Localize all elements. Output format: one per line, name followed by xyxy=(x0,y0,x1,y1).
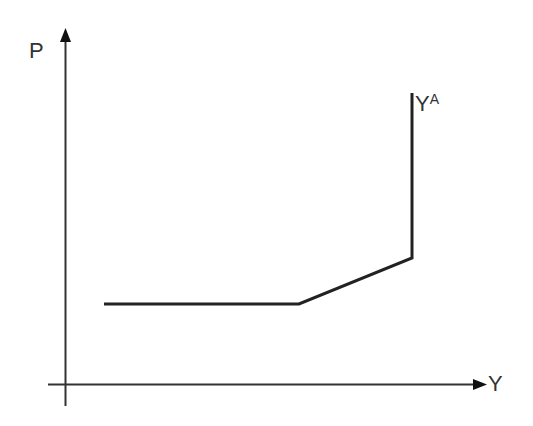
diagram-canvas xyxy=(0,0,533,426)
y-axis-arrow-icon xyxy=(60,28,71,42)
x-axis-arrow-icon xyxy=(473,379,487,390)
y-axis-label: P xyxy=(29,40,44,62)
y-axis xyxy=(60,28,71,406)
curve-label-superscript: A xyxy=(430,91,439,107)
supply-curve xyxy=(104,93,412,304)
curve-label: YA xyxy=(415,93,439,115)
curve-label-base: Y xyxy=(415,91,430,116)
x-axis-label: Y xyxy=(488,373,503,395)
x-axis xyxy=(48,379,487,390)
